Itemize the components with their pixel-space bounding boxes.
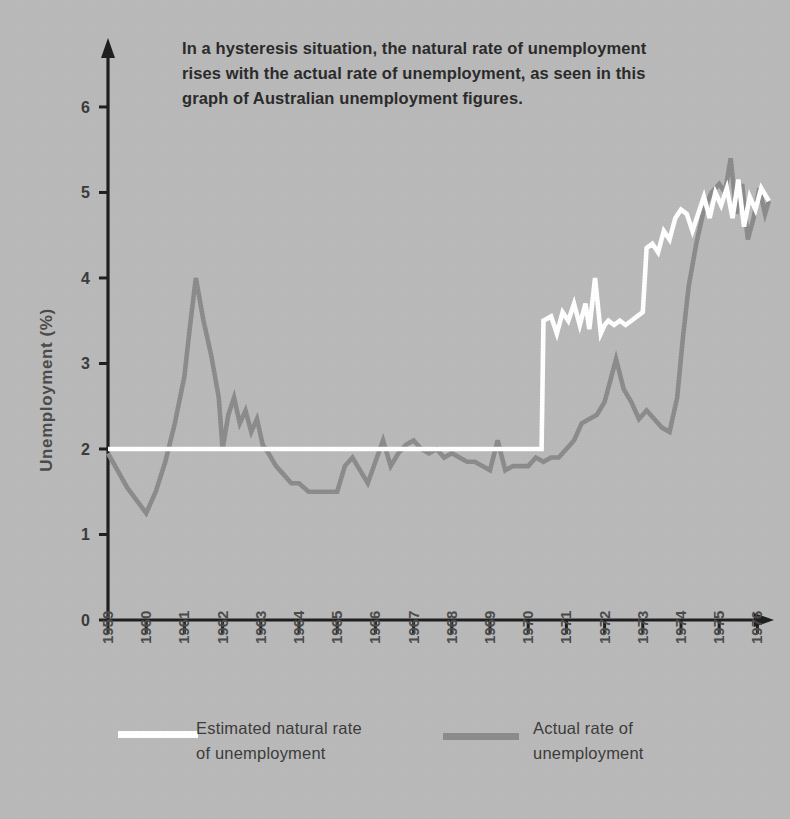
y-tick-label: 3 [81, 355, 90, 372]
y-axis-ticks: 0123456 [81, 99, 109, 629]
unemployment-line-chart: 0123456 19591960196119621963196419651966… [0, 0, 790, 819]
x-tick-label: 1972 [596, 611, 613, 644]
x-tick-label: 1963 [252, 611, 269, 644]
x-tick-label: 1959 [99, 611, 116, 644]
x-tick-label: 1971 [557, 611, 574, 644]
y-tick-label: 2 [81, 441, 90, 458]
x-axis-ticks: 1959196019611962196319641965196619671968… [99, 610, 765, 644]
x-tick-label: 1970 [519, 611, 536, 644]
y-tick-label: 4 [81, 270, 90, 287]
x-tick-label: 1967 [405, 611, 422, 644]
x-tick-label: 1964 [290, 610, 307, 644]
legend-label-actual-rate: Actual rate of unemployment [533, 716, 733, 766]
x-tick-label: 1976 [748, 611, 765, 644]
x-tick-label: 1966 [366, 611, 383, 644]
chart-series-group [108, 158, 769, 513]
legend-label-natural-rate: Estimated natural rate of unemployment [196, 716, 426, 766]
y-tick-label: 6 [81, 99, 90, 116]
x-tick-label: 1973 [634, 611, 651, 644]
y-axis-title: Unemployment (%) [37, 308, 56, 472]
y-tick-label: 5 [81, 184, 90, 201]
legend-swatch-natural-rate [118, 731, 198, 738]
x-tick-label: 1960 [137, 611, 154, 644]
x-tick-label: 1961 [175, 611, 192, 644]
x-tick-label: 1962 [214, 611, 231, 644]
chart-caption: In a hysteresis situation, the natural r… [182, 36, 742, 111]
series-line-actual-rate [108, 158, 769, 513]
x-tick-label: 1974 [672, 610, 689, 644]
y-axis-arrowhead [101, 38, 115, 58]
x-tick-label: 1969 [481, 611, 498, 644]
x-tick-label: 1968 [443, 611, 460, 644]
legend-swatch-actual-rate [443, 733, 519, 740]
x-tick-label: 1975 [710, 611, 727, 644]
y-tick-label: 0 [81, 612, 90, 629]
chart-figure: 0123456 19591960196119621963196419651966… [0, 0, 790, 819]
chart-axes [101, 38, 774, 627]
x-tick-label: 1965 [328, 611, 345, 644]
y-tick-label: 1 [81, 526, 90, 543]
series-line-natural-rate [108, 180, 769, 449]
